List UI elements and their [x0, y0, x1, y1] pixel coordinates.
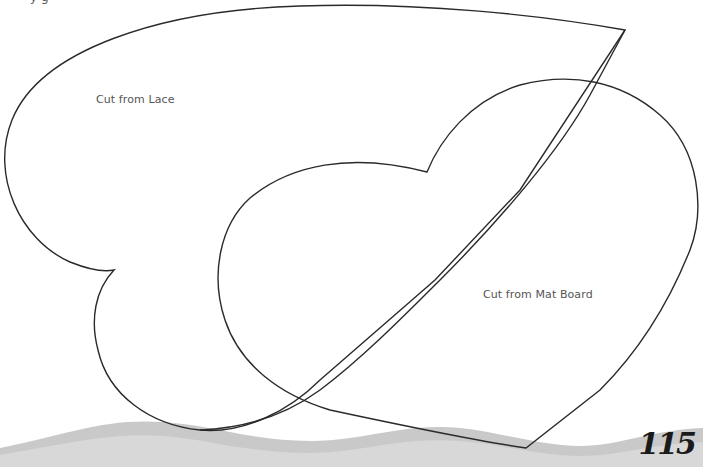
page-number: 115 [638, 429, 695, 459]
mat-board-heart-outline [218, 79, 698, 448]
lace-cut-label: Cut from Lace [96, 93, 175, 106]
mat-board-cut-label: Cut from Mat Board [483, 288, 593, 301]
pattern-drawing [0, 0, 703, 467]
header-fragment-text: y g [30, 0, 49, 4]
lace-heart-outline [5, 5, 625, 430]
pattern-page: y g Cut from Lace Cut from Mat Board 115 [0, 0, 703, 467]
lace-heart-diagonal-edge [200, 30, 625, 430]
